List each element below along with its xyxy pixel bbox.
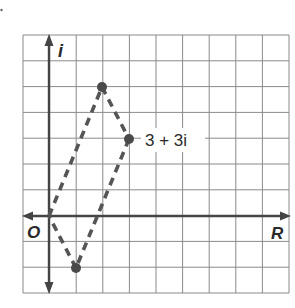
point-3-plus-3i — [124, 134, 134, 144]
stray-mark — [0, 9, 2, 11]
point-bottom — [71, 263, 81, 273]
arrow-up-icon — [45, 34, 54, 46]
point-top — [97, 82, 107, 92]
parallelogram — [49, 87, 129, 268]
grid — [23, 35, 289, 293]
point-label: 3 + 3i — [145, 131, 187, 150]
arrow-left-icon — [22, 212, 33, 221]
complex-plane-diagram: 3 + 3i i R O — [0, 0, 295, 308]
imaginary-axis-label: i — [58, 41, 64, 61]
arrow-down-icon — [45, 282, 54, 294]
real-axis-label: R — [271, 224, 284, 243]
origin-label: O — [27, 223, 40, 242]
